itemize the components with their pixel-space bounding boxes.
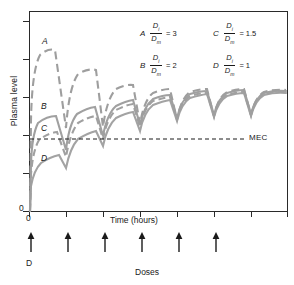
legend-key-b: B bbox=[140, 61, 145, 70]
legend-value-a: = 3 bbox=[166, 29, 177, 38]
fraction-denominator: Dm bbox=[150, 65, 162, 77]
legend-value-d: = 1 bbox=[239, 61, 250, 70]
first-dose-label: D bbox=[26, 258, 32, 268]
legend-key-a: A bbox=[140, 29, 145, 38]
legend-key-d: D bbox=[213, 61, 219, 70]
curve-label-a: A bbox=[42, 36, 48, 46]
pharmacokinetics-chart: A B C D MEC Plasma level Time (hours) 0 … bbox=[0, 0, 294, 285]
legend-value-c: = 1.5 bbox=[239, 29, 256, 38]
x-axis-origin-label: 0 bbox=[26, 213, 31, 223]
fraction-denominator: Dm bbox=[224, 33, 236, 45]
legend: A Di Dm = 3 C Di Dm = 1.5 B Di bbox=[140, 22, 286, 86]
curve-label-c: C bbox=[41, 123, 47, 133]
doses-caption: Doses bbox=[135, 267, 159, 277]
x-axis-title: Time (hours) bbox=[110, 215, 158, 225]
dose-ratio-fraction: Di Dm bbox=[150, 22, 162, 44]
legend-entry-c: C Di Dm = 1.5 bbox=[213, 22, 286, 44]
dose-arrow bbox=[213, 232, 220, 252]
dose-arrow bbox=[176, 232, 183, 252]
curve-label-b: B bbox=[41, 101, 47, 111]
dose-arrow bbox=[28, 232, 35, 252]
legend-row: B Di Dm = 2 D Di Dm = 1 bbox=[140, 54, 286, 76]
legend-key-c: C bbox=[213, 29, 219, 38]
fraction-numerator: Di bbox=[152, 22, 161, 33]
fraction-denominator: Dm bbox=[224, 65, 236, 77]
fraction-numerator: Di bbox=[152, 54, 161, 65]
dose-ratio-fraction: Di Dm bbox=[224, 22, 236, 44]
fraction-numerator: Di bbox=[225, 54, 234, 65]
fraction-numerator: Di bbox=[225, 22, 234, 33]
legend-row: A Di Dm = 3 C Di Dm = 1.5 bbox=[140, 22, 286, 44]
y-axis-origin-label: 0 bbox=[19, 203, 24, 213]
legend-entry-d: D Di Dm = 1 bbox=[213, 54, 286, 76]
curve-label-d: D bbox=[41, 153, 47, 163]
dose-ratio-fraction: Di Dm bbox=[150, 54, 162, 76]
curve-c bbox=[30, 92, 286, 211]
dose-ratio-fraction: Di Dm bbox=[224, 54, 236, 76]
legend-entry-b: B Di Dm = 2 bbox=[140, 54, 213, 76]
dose-arrow bbox=[65, 232, 72, 252]
mec-label: MEC bbox=[249, 133, 268, 142]
dose-arrow bbox=[139, 232, 146, 252]
legend-value-b: = 2 bbox=[166, 61, 177, 70]
y-axis-title: Plasma level bbox=[9, 65, 19, 137]
dose-arrow bbox=[102, 232, 109, 252]
fraction-denominator: Dm bbox=[150, 33, 162, 45]
legend-entry-a: A Di Dm = 3 bbox=[140, 22, 213, 44]
